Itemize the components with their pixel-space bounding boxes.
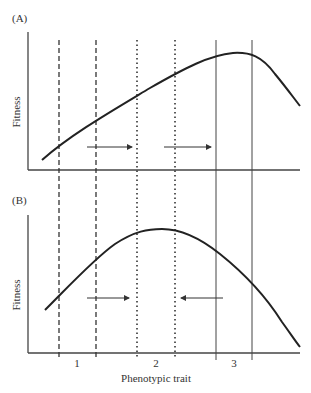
panel-b-label: (B) — [12, 194, 27, 207]
region-1-label: 1 — [74, 357, 80, 369]
panel-b-axes — [28, 215, 300, 353]
panel-a-fitness-curve — [42, 53, 300, 160]
panel-a-axes — [28, 32, 300, 170]
region-3-label: 3 — [231, 357, 237, 369]
region-1-boundaries — [59, 40, 96, 358]
region-3-boundaries — [216, 40, 252, 360]
panel-b-ylabel: Fitness — [10, 279, 22, 310]
panel-a-label: (A) — [12, 12, 28, 25]
x-axis-label: Phenotypic trait — [121, 372, 191, 384]
region-2-boundaries — [137, 40, 175, 358]
region-2-label: 2 — [153, 357, 159, 369]
selection-diagram: (A) (B) Fitness Fitness — [0, 0, 311, 393]
panel-b-fitness-curve — [45, 229, 300, 347]
panel-a-ylabel: Fitness — [10, 96, 22, 127]
